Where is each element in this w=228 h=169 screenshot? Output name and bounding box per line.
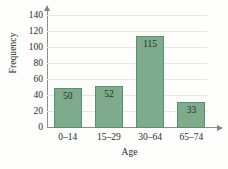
y-axis-tick-label: 60	[34, 74, 44, 84]
bar-value-label: 52	[96, 89, 122, 99]
x-axis-tick-label: 0–14	[58, 132, 77, 142]
bar: 115	[136, 36, 164, 128]
y-axis-tick-label: 140	[29, 10, 43, 20]
y-axis-tick-label: 120	[29, 26, 43, 36]
y-axis-tick-label: 40	[34, 90, 44, 100]
y-axis-tick-label: 80	[34, 58, 44, 68]
bar-chart: Frequency 020406080100120140 505211533 0…	[0, 0, 228, 169]
x-axis-title: Age	[47, 147, 212, 157]
y-axis-arrow-icon	[44, 5, 50, 11]
bar: 33	[177, 102, 205, 128]
bar-value-label: 115	[137, 39, 163, 49]
bar: 52	[95, 86, 123, 128]
bar-value-label: 50	[55, 91, 81, 101]
y-axis-tick-label: 0	[38, 122, 43, 132]
y-axis-tick-label: 100	[29, 42, 43, 52]
bar-value-label: 33	[178, 105, 204, 115]
x-axis-tick-label: 65–74	[180, 132, 204, 142]
y-axis-tick-label: 20	[34, 106, 44, 116]
bar: 50	[54, 88, 82, 128]
y-axis-title: Frequency	[8, 18, 18, 88]
x-axis-tick-label: 30–64	[138, 132, 162, 142]
plot-area: 020406080100120140 505211533 0–1415–2930…	[47, 16, 212, 128]
x-axis-arrow-icon	[217, 125, 223, 131]
x-axis-tick-label: 15–29	[97, 132, 121, 142]
bars-layer: 505211533	[47, 16, 212, 128]
